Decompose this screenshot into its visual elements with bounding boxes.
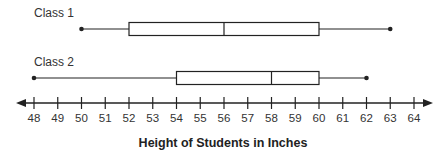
number-line-axis: 4849505152535455565758596061626364 [16, 97, 433, 124]
left-arrow-icon [16, 99, 26, 107]
tick-label: 53 [146, 112, 159, 124]
right-arrow-icon [423, 99, 433, 107]
tick-label: 64 [408, 112, 421, 124]
tick-label: 51 [99, 112, 112, 124]
min-point [32, 76, 37, 81]
tick-label: 48 [28, 112, 41, 124]
tick-label: 52 [123, 112, 136, 124]
tick-label: 58 [265, 112, 278, 124]
tick-label: 55 [194, 112, 207, 124]
series-label: Class 1 [34, 6, 74, 20]
box-plots: Class 1Class 2 [32, 6, 393, 85]
x-axis-label: Height of Students in Inches [139, 136, 308, 150]
chart-canvas: Class 1Class 2 4849505152535455565758596… [0, 0, 446, 160]
tick-label: 56 [218, 112, 231, 124]
series-label: Class 2 [34, 55, 74, 69]
max-point [388, 27, 393, 32]
min-point [79, 27, 84, 32]
tick-label: 54 [170, 112, 183, 124]
box-plot-chart: Class 1Class 2 4849505152535455565758596… [0, 0, 446, 160]
box-plot-2: Class 2 [32, 55, 369, 85]
tick-label: 57 [241, 112, 254, 124]
tick-label: 63 [384, 112, 397, 124]
tick-label: 59 [289, 112, 302, 124]
box-plot-1: Class 1 [34, 6, 393, 36]
tick-label: 60 [313, 112, 326, 124]
max-point [364, 76, 369, 81]
tick-label: 62 [360, 112, 373, 124]
tick-label: 50 [75, 112, 88, 124]
tick-label: 61 [336, 112, 349, 124]
tick-label: 49 [51, 112, 64, 124]
iqr-box [177, 72, 320, 85]
